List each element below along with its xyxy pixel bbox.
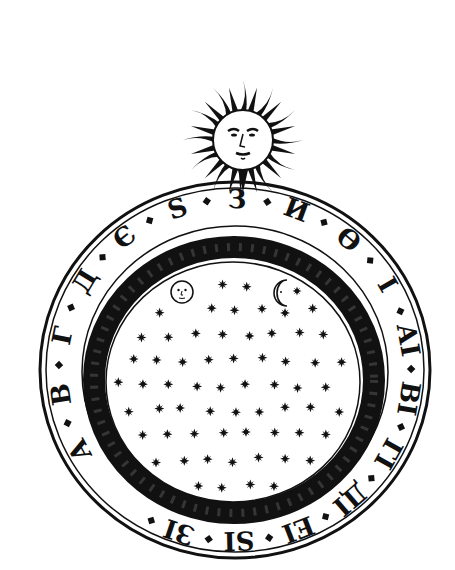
star-icon xyxy=(151,458,161,468)
star-icon xyxy=(216,383,226,393)
star-icon xyxy=(113,377,123,387)
numeral-letter: В xyxy=(44,381,77,407)
star-icon xyxy=(254,407,264,417)
star-icon xyxy=(179,456,189,466)
starry-sky xyxy=(106,262,360,502)
star-icon xyxy=(245,479,255,489)
star-icon xyxy=(192,381,202,391)
star-icon xyxy=(138,430,148,440)
star-icon xyxy=(227,457,237,467)
star-icon xyxy=(138,379,148,389)
star-icon xyxy=(229,353,239,363)
star-icon xyxy=(295,328,305,338)
star-icon xyxy=(241,427,251,437)
numeral-letter: З xyxy=(228,184,247,214)
star-icon xyxy=(280,308,290,318)
star-icon xyxy=(245,331,255,341)
star-icon xyxy=(189,429,199,439)
star-icon xyxy=(175,403,185,413)
numeral-letter: ЅІ xyxy=(223,526,255,557)
star-icon xyxy=(155,308,165,318)
star-icon xyxy=(321,429,331,439)
star-icon xyxy=(162,429,172,439)
star-icon xyxy=(321,382,331,392)
star-icon xyxy=(204,355,214,365)
cosmological-diagram: АВГДЄЅЗИѲІАІВІГІДІЕІЅІЗІ xyxy=(0,0,455,570)
star-icon xyxy=(242,282,252,292)
star-icon xyxy=(203,454,213,464)
star-icon xyxy=(257,353,267,363)
star-icon xyxy=(337,357,347,367)
star-icon xyxy=(154,404,164,414)
star-icon xyxy=(280,402,290,412)
star-icon xyxy=(240,379,250,389)
star-icon xyxy=(257,304,267,314)
star-icon xyxy=(308,303,318,313)
star-icon xyxy=(193,481,203,491)
star-icon xyxy=(230,305,240,315)
numeral-letter: А xyxy=(61,434,97,467)
star-icon xyxy=(218,279,228,289)
star-icon xyxy=(305,456,315,466)
star-icon xyxy=(231,407,241,417)
star-icon xyxy=(207,303,217,313)
star-icon xyxy=(310,358,320,368)
star-icon xyxy=(293,383,303,393)
numeral-letter: АІ xyxy=(391,321,426,359)
star-icon xyxy=(269,481,279,491)
star-icon xyxy=(191,328,201,338)
star-icon xyxy=(129,354,139,364)
star-icon xyxy=(294,428,304,438)
star-icon xyxy=(219,428,229,438)
star-icon xyxy=(267,328,277,338)
star-icon xyxy=(334,407,344,417)
star-icon xyxy=(305,402,315,412)
star-icon xyxy=(163,332,173,342)
numeral-letter: Г xyxy=(46,324,79,348)
numeral-letter: Ѕ xyxy=(164,191,192,225)
star-icon xyxy=(280,454,290,464)
star-icon xyxy=(270,428,280,438)
full-moon-face-icon xyxy=(171,281,193,303)
star-icon xyxy=(270,380,280,390)
star-icon xyxy=(218,329,228,339)
star-icon xyxy=(152,355,162,365)
star-icon xyxy=(217,483,227,493)
star-icon xyxy=(163,379,173,389)
numeral-letter: І xyxy=(372,272,404,298)
star-icon xyxy=(178,357,188,367)
star-icon xyxy=(136,333,146,343)
star-icon xyxy=(281,357,291,367)
star-icon xyxy=(205,406,215,416)
numeral-letter: ВІ xyxy=(391,379,426,418)
star-icon xyxy=(253,452,263,462)
star-icon xyxy=(318,329,328,339)
star-icon xyxy=(124,407,134,417)
